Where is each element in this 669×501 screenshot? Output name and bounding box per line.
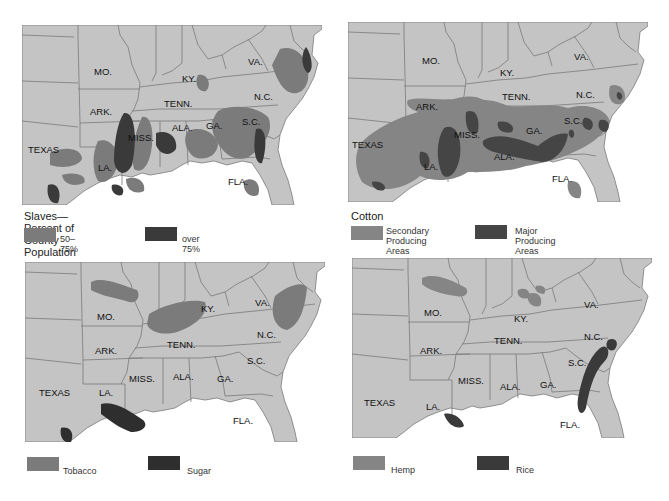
label-nc: N.C.: [257, 329, 276, 340]
label-ala: ALA.: [494, 151, 515, 162]
legend-label-over-75: over 75%: [182, 234, 200, 254]
label-miss: MISS.: [128, 132, 154, 143]
legend-swatch-hemp: [353, 456, 385, 470]
label-va: VA.: [248, 56, 263, 67]
label-mo: MO.: [422, 55, 440, 66]
label-ark: ARK.: [416, 101, 438, 112]
label-sc: S.C.: [247, 355, 265, 366]
label-ga: GA.: [526, 125, 542, 136]
legend-swatch-secondary: [351, 226, 383, 240]
label-fla: FLA.: [233, 415, 253, 426]
label-la: LA.: [426, 401, 440, 412]
label-ala: ALA.: [173, 371, 194, 382]
legend-swatch-rice: [477, 456, 509, 470]
label-ala: ALA.: [500, 381, 521, 392]
label-nc: N.C.: [254, 91, 273, 102]
label-nc: N.C.: [584, 331, 603, 342]
label-va: VA.: [574, 51, 589, 62]
label-fla: FLA.: [560, 419, 580, 430]
label-ky: KY.: [182, 73, 196, 84]
legend-swatch-major: [475, 225, 507, 239]
legend-label-sugar: Sugar: [187, 466, 211, 476]
label-sc: S.C.: [568, 357, 586, 368]
legend-swatch-50-75: [24, 228, 56, 242]
label-mo: MO.: [94, 66, 112, 77]
legend-label-secondary: Secondary Producing Areas: [386, 226, 429, 256]
label-fla: FLA.: [228, 176, 248, 187]
label-tenn: TENN.: [502, 91, 531, 102]
cotton-legend-title: Cotton: [351, 210, 383, 222]
label-ky: KY.: [514, 313, 528, 324]
legend-swatch-tobacco: [27, 457, 59, 471]
label-tenn: TENN.: [164, 98, 193, 109]
legend-label-rice: Rice: [516, 465, 534, 475]
legend-label-hemp: Hemp: [391, 465, 415, 475]
label-ky: KY.: [201, 303, 215, 314]
legend-label-50-75: 50–75%: [60, 234, 78, 254]
label-tenn: TENN.: [494, 335, 523, 346]
hemp-rice-map: MO. KY. VA. ARK. TENN. N.C. TEXAS MISS. …: [352, 258, 652, 438]
label-la: LA.: [99, 387, 113, 398]
tobacco-sugar-map: MO. KY. VA. ARK. TENN. N.C. TEXAS MISS. …: [25, 262, 325, 442]
label-ga: GA.: [206, 120, 222, 131]
legend-swatch-sugar: [148, 456, 180, 470]
label-va: VA.: [255, 297, 270, 308]
cotton-map: MO. KY. VA. ARK. TENN. N.C. TEXAS MISS. …: [348, 22, 648, 202]
label-sc: S.C.: [564, 115, 582, 126]
label-miss: MISS.: [458, 375, 484, 386]
label-mo: MO.: [97, 311, 115, 322]
label-tenn: TENN.: [167, 339, 196, 350]
label-va: VA.: [584, 299, 599, 310]
label-texas: TEXAS: [352, 139, 383, 150]
label-texas: TEXAS: [28, 144, 59, 155]
label-miss: MISS.: [129, 373, 155, 384]
legend-label-major: Major Producing Areas: [515, 226, 556, 256]
label-texas: TEXAS: [39, 387, 70, 398]
legend-swatch-over-75: [145, 227, 177, 241]
label-mo: MO.: [424, 307, 442, 318]
label-ga: GA.: [217, 373, 233, 384]
label-sc: S.C.: [242, 116, 260, 127]
label-miss: MISS.: [454, 129, 480, 140]
label-ark: ARK.: [95, 345, 117, 356]
legend-label-tobacco: Tobacco: [63, 466, 97, 476]
label-la: LA.: [424, 161, 438, 172]
label-ky: KY.: [500, 67, 514, 78]
label-ark: ARK.: [90, 106, 112, 117]
label-ga: GA.: [540, 379, 556, 390]
label-ala: ALA.: [172, 122, 193, 133]
label-ark: ARK.: [420, 345, 442, 356]
slaves-map: MO. KY. VA. ARK. TENN. N.C. TEXAS MISS. …: [22, 25, 322, 205]
label-texas: TEXAS: [364, 397, 395, 408]
label-fla: FLA.: [552, 173, 572, 184]
label-nc: N.C.: [576, 89, 595, 100]
label-la: LA.: [98, 162, 112, 173]
